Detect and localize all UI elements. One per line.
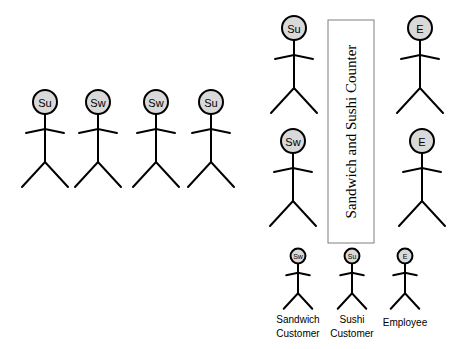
- legs: [270, 201, 316, 226]
- figure-label: E: [416, 23, 423, 35]
- legs: [391, 293, 420, 309]
- legend-label-line2: Customer: [330, 328, 374, 339]
- legs: [399, 201, 445, 226]
- sushi-customer-figure-queue: Su: [22, 90, 68, 187]
- sushi-customer-figure-at-counter: Su: [271, 16, 317, 113]
- figure-label: E: [403, 253, 408, 260]
- figure-label: Su: [348, 253, 357, 260]
- legend-item-e: EEmployee: [383, 249, 428, 328]
- legs: [133, 162, 179, 187]
- sandwich-sushi-counter: Sandwich and Sushi Counter: [328, 20, 374, 243]
- figure-label: Sw: [90, 97, 105, 109]
- figure-label: Su: [204, 97, 217, 109]
- legs: [75, 162, 121, 187]
- restaurant-queue-diagram: Sandwich and Sushi Counter SuSwSwSuSuSwE…: [0, 0, 463, 349]
- employee-figure: E: [397, 16, 443, 113]
- stick-figures: SuSwSwSuSuSwEE: [22, 16, 445, 226]
- legend-label: Employee: [383, 317, 428, 328]
- legend-label-line1: Sandwich: [276, 314, 319, 325]
- legend: SwSandwichCustomerSuSushiCustomerEEmploy…: [276, 249, 427, 339]
- counter-label: Sandwich and Sushi Counter: [343, 45, 359, 219]
- sandwich-customer-figure-queue: Sw: [133, 90, 179, 187]
- legend-label-line2: Customer: [276, 328, 320, 339]
- legend-item-su: SuSushiCustomer: [330, 249, 374, 339]
- sandwich-customer-figure-queue: Sw: [75, 90, 121, 187]
- legs: [284, 293, 313, 309]
- figure-label: Sw: [285, 136, 300, 148]
- legend-item-sw: SwSandwichCustomer: [276, 249, 320, 339]
- sandwich-customer-figure-at-counter: Sw: [270, 129, 316, 226]
- figure-label: Su: [38, 97, 51, 109]
- figure-label: E: [418, 136, 425, 148]
- sushi-customer-figure-queue: Su: [188, 90, 234, 187]
- legs: [397, 88, 443, 113]
- figure-label: Sw: [293, 253, 304, 260]
- employee-figure: E: [399, 129, 445, 226]
- legend-label-line1: Sushi: [339, 314, 364, 325]
- figure-label: Su: [287, 23, 300, 35]
- figure-label: Sw: [148, 97, 163, 109]
- legs: [188, 162, 234, 187]
- legs: [338, 293, 367, 309]
- legs: [22, 162, 68, 187]
- legs: [271, 88, 317, 113]
